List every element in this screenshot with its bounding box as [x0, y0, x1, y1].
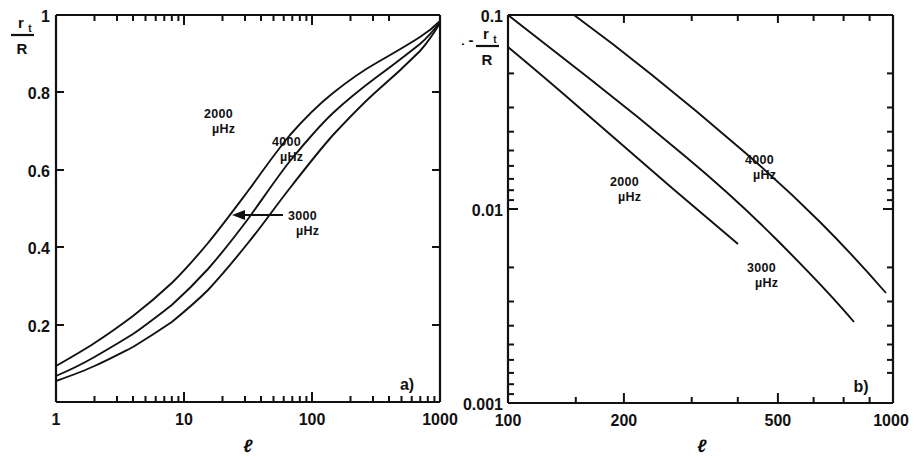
panel-b-xtick-1000: 1000: [873, 412, 909, 429]
panel-b-xtick-100: 100: [495, 412, 522, 429]
panel-a-curves: [56, 21, 440, 381]
panel-b-ytick-0.001: 0.001: [463, 396, 503, 413]
panel-b-ytick-0.1: 0.1: [481, 8, 503, 25]
panel-a-y-ticklabels: 1 0.8 0.6 0.4 0.2: [28, 8, 50, 335]
panel-a-x-ticks-top: [95, 15, 390, 25]
panel-b-axes-frame: [508, 15, 893, 403]
panel-a-x-axis-label: ℓ: [243, 436, 253, 456]
panel-a-y-axis-label: r t R: [11, 14, 34, 57]
panel-b-ylabel-prefix: 1 -: [462, 31, 474, 48]
panel-b: 1 - r t R: [462, 0, 924, 460]
panel-b-x-ticks: [508, 15, 893, 403]
panel-b-x-axis-label: ℓ: [697, 436, 707, 456]
curve-4000uHz-panel-b: [574, 15, 886, 293]
panel-a-xtick-10: 10: [175, 411, 193, 428]
panel-b-svg: 1 - r t R: [462, 0, 924, 460]
curve-3000uHz-panel-b: [508, 15, 854, 322]
panel-a-ylabel-numerator: r: [18, 14, 24, 31]
panel-b-curves: [508, 15, 886, 322]
panel-b-ylabel-numerator: r: [483, 25, 489, 42]
panel-a-xtick-1000: 1000: [422, 411, 458, 428]
panel-a-xtick-100: 100: [299, 411, 326, 428]
panel-a-label-4000-value: 4000: [272, 135, 301, 149]
panel-a-label-3000-value: 3000: [288, 209, 317, 223]
panel-a-xtick-1: 1: [52, 411, 61, 428]
panel-a-svg: r t R: [0, 0, 462, 460]
panel-b-label-3000-value: 3000: [747, 261, 776, 275]
panel-b-curve-labels: 2000 µHz 4000 µHz 3000 µHz: [610, 153, 778, 290]
panel-a-x-ticklabels: 1 10 100 1000: [52, 411, 458, 428]
panel-a-x-ticks: [56, 392, 440, 402]
panel-b-y-axis-label: 1 - r t R: [462, 25, 499, 68]
panel-a-ytick-0.4: 0.4: [28, 240, 50, 257]
panel-a-label-3000-unit: µHz: [296, 224, 319, 238]
panel-a-ytick-0.6: 0.6: [28, 163, 50, 180]
panel-b-label-4000-value: 4000: [745, 153, 774, 167]
panel-a-letter: a): [400, 376, 414, 393]
panel-b-label-2000-unit: µHz: [618, 190, 641, 204]
curve-4000uHz-panel-a: [56, 23, 440, 381]
panel-b-label-3000-unit: µHz: [755, 276, 778, 290]
panel-a-label-4000-unit: µHz: [280, 150, 303, 164]
panel-b-label-4000-unit: µHz: [753, 168, 776, 182]
panel-b-y-ticks: [508, 15, 893, 403]
panel-a-label-2000-unit: µHz: [212, 122, 235, 136]
panel-a-ylabel-numerator-subscript: t: [28, 23, 32, 34]
panel-a-ytick-0.8: 0.8: [28, 85, 50, 102]
panel-b-letter: b): [853, 378, 868, 395]
panel-a-ytick-0.2: 0.2: [28, 318, 50, 335]
panel-b-x-ticklabels: 100 200 500 1000: [495, 412, 909, 429]
panel-a-y-ticks: [56, 15, 440, 325]
curve-3000uHz-panel-a: [56, 22, 440, 376]
curve-2000uHz-panel-b: [508, 47, 738, 244]
panel-b-xtick-500: 500: [765, 412, 792, 429]
panel-a-ylabel-denominator: R: [17, 40, 28, 57]
panel-a: r t R: [0, 0, 462, 460]
panel-b-ytick-0.01: 0.01: [472, 202, 503, 219]
arrow-to-3000-curve-icon: [232, 210, 283, 220]
panel-b-ylabel-numerator-subscript: t: [493, 34, 497, 45]
panel-b-label-2000-value: 2000: [610, 175, 639, 189]
panel-b-xtick-200: 200: [611, 412, 638, 429]
panel-a-label-2000-value: 2000: [204, 107, 233, 121]
panel-b-y-ticklabels: 0.1 0.01 0.001: [463, 8, 503, 413]
panel-a-ytick-1: 1: [41, 8, 50, 25]
panel-b-ylabel-denominator: R: [482, 51, 493, 68]
figure-root: r t R: [0, 0, 924, 460]
